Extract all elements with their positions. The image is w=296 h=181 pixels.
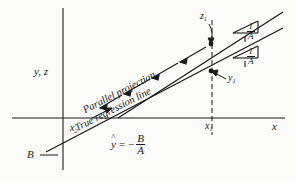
equation-equals: = — [119, 138, 125, 150]
equation-hat-accent: ^ — [111, 133, 115, 142]
y-axis-label: y, z — [34, 65, 48, 77]
figure-canvas: y, z x z1 y1 x1 x2 B 1 A 1 A Parallel pr… — [0, 0, 296, 181]
slope-fraction-upper: 1 A — [247, 22, 255, 41]
equation-minus: − — [128, 138, 134, 150]
y1-leader-arrow — [211, 70, 226, 79]
slope-lower-denominator: A — [247, 57, 255, 66]
z1-leader-arrow — [208, 24, 214, 44]
y1-point-label: y1 — [228, 72, 235, 83]
x1-axis-tick-label: x1 — [205, 120, 212, 131]
x-intercept-equation: ^ y =− B A — [111, 134, 145, 157]
slope-fraction-lower: 1 A — [247, 47, 255, 66]
equation-fraction: B A — [136, 133, 145, 156]
slope-label-upper: 1 A — [247, 23, 255, 42]
z1-subscript: 1 — [204, 16, 207, 22]
b-intercept-label: B — [27, 148, 34, 160]
x-axis-label: x — [272, 120, 277, 132]
equation-denominator: A — [136, 145, 145, 156]
slope-label-lower: 1 A — [247, 48, 255, 67]
z1-point-label: z1 — [200, 10, 207, 21]
equation-lhs: ^ y — [111, 138, 116, 150]
slope-upper-denominator: A — [247, 32, 255, 41]
